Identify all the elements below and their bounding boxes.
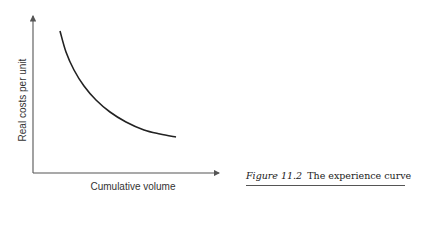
figure-number: Figure 11.2 (246, 170, 302, 181)
figure-title: The experience curve (307, 170, 411, 181)
x-axis-label: Cumulative volume (90, 181, 175, 192)
y-axis-label: Real costs per unit (17, 59, 28, 142)
experience-curve-line (60, 31, 176, 137)
figure-caption: Figure 11.2The experience curve (246, 170, 405, 186)
